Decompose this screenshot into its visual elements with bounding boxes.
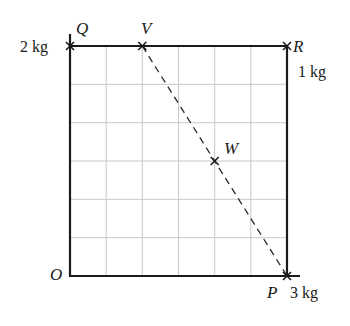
label-W: W	[224, 140, 238, 157]
grid-lines	[70, 46, 287, 276]
label-Q: Q	[76, 20, 88, 37]
mass-label-Q: 2 kg	[20, 39, 48, 55]
label-P: P	[267, 284, 277, 301]
label-O: O	[50, 266, 62, 283]
mass-label-R: 1 kg	[298, 64, 326, 80]
label-V: V	[141, 20, 151, 37]
mass-label-P: 3 kg	[290, 285, 318, 301]
label-R: R	[293, 38, 303, 55]
